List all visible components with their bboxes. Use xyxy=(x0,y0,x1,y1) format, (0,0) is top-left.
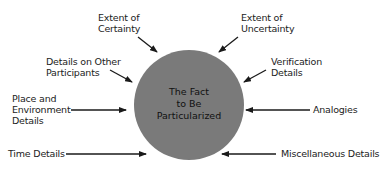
arrow-verification xyxy=(244,70,266,82)
label-verification: Verification Details xyxy=(271,56,322,78)
label-place-environment: Place and Environment Details xyxy=(12,93,70,126)
label-time: Time Details xyxy=(8,148,65,159)
label-analogies: Analogies xyxy=(313,104,357,115)
label-miscellaneous: Miscellaneous Details xyxy=(281,148,379,159)
arrow-extent-certainty xyxy=(138,37,157,52)
center-line-3: Particularized xyxy=(139,110,239,122)
center-label: The Fact to Be Particularized xyxy=(139,86,239,122)
arrow-extent-uncertainty xyxy=(219,37,238,52)
label-extent-uncertainty: Extent of Uncertainty xyxy=(241,12,294,34)
label-other-participants: Details on Other Participants xyxy=(46,56,121,78)
label-extent-certainty: Extent of Certainty xyxy=(98,12,140,34)
center-line-1: The Fact xyxy=(139,86,239,98)
diagram-canvas xyxy=(0,0,384,170)
center-line-2: to Be xyxy=(139,98,239,110)
